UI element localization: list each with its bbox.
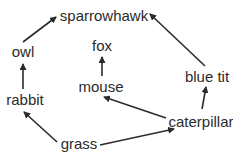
node-grass: grass (61, 135, 98, 152)
food-web-diagram: sparrowhawk owl fox blue tit mouse rabbi… (0, 0, 233, 153)
arrow-grass-to-rabbit (24, 112, 57, 142)
arrow-caterpillar-to-blue-tit (202, 87, 206, 109)
node-mouse: mouse (78, 78, 123, 95)
node-rabbit: rabbit (6, 91, 44, 108)
arrow-owl-to-sparrowhawk (23, 17, 56, 42)
arrow-blue-tit-to-sparrowhawk (150, 14, 205, 66)
arrow-caterpillar-to-mouse (104, 97, 166, 118)
node-owl: owl (12, 43, 35, 60)
arrow-grass-to-caterpillar (100, 129, 174, 145)
node-blue-tit: blue tit (185, 68, 230, 85)
node-caterpillar: caterpillar (168, 113, 233, 130)
node-sparrowhawk: sparrowhawk (60, 7, 149, 24)
node-fox: fox (92, 37, 113, 54)
